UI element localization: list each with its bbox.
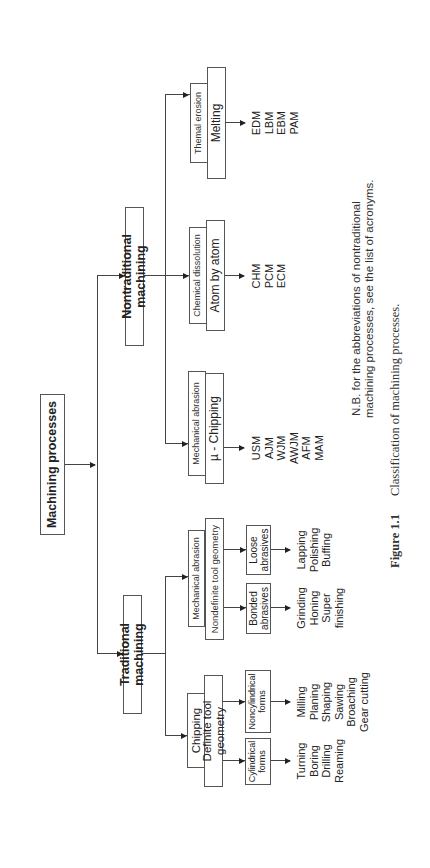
caption-text: Classification of machining processes. — [388, 304, 402, 496]
process-item: AJM — [263, 425, 276, 471]
process-item: Reaming — [333, 734, 346, 788]
process-item: Broaching — [345, 666, 358, 738]
arrow-head-icon — [285, 699, 291, 705]
node-label: abrasives — [259, 587, 270, 630]
node-label: Traditional machining — [119, 596, 145, 713]
connector-main-bar — [97, 275, 98, 654]
process-item: Milling — [295, 666, 308, 738]
node-label: Nontraditional machining — [121, 208, 147, 345]
node-atom-by-atom: Atom by atom — [206, 220, 225, 331]
process-list-cylindrical: Turning Boring Drilling Reaming — [295, 734, 345, 788]
abbreviation-note: N.B. for the abbreviations of nontraditi… — [350, 180, 376, 418]
node-label: µ - Chipping — [208, 396, 221, 461]
process-list-bonded: Grinding Honing Super finishing — [295, 580, 345, 636]
node-chemical-dissolution: Chemical dissolution — [189, 227, 207, 324]
figure-caption: Figure 1.1Classification of machining pr… — [388, 304, 403, 568]
node-bonded-abrasives: Bonded abrasives — [246, 583, 271, 634]
process-item: CHM — [250, 256, 263, 296]
process-item: Planing — [308, 666, 321, 738]
process-list-noncylindrical: Milling Planing Shaping Sawing Broaching… — [295, 666, 370, 738]
node-label: abrasives — [259, 529, 270, 572]
node-nondefinite-tool-geometry: Nondefinite tool geometry — [205, 518, 224, 640]
connector-traditional-bar — [165, 576, 166, 736]
node-cylindrical-forms: Cylindrical forms — [245, 738, 271, 785]
process-item: Buffing — [320, 522, 333, 578]
process-item: PCM — [263, 256, 276, 296]
node-loose-abrasives: Loose abrasives — [246, 525, 271, 575]
note-line: machining processes, see the list of acr… — [363, 180, 376, 418]
process-item: ECM — [275, 256, 288, 296]
process-item: USM — [250, 425, 263, 471]
process-item: Honing — [308, 580, 321, 636]
process-item: Drilling — [320, 734, 333, 788]
node-label: Mechanical abrasion — [192, 382, 201, 465]
process-list-mechanical-nt: USM AJM WJM AWJM AFM MAM — [250, 425, 325, 471]
process-item: Super — [320, 580, 333, 636]
node-label: forms — [258, 750, 268, 773]
node-nontraditional-machining: Nontraditional machining — [125, 207, 144, 346]
process-item: Sawing — [333, 666, 346, 738]
node-label: Loose — [248, 536, 259, 563]
connector — [144, 275, 165, 276]
arrow-head-icon — [183, 92, 189, 98]
process-item: AWJM — [288, 425, 301, 471]
node-noncylindrical-forms: Noncylindrical forms — [245, 670, 271, 733]
node-label: Chipping — [190, 708, 202, 753]
arrow-head-icon — [285, 605, 291, 611]
node-label: forms — [258, 690, 268, 713]
process-list-thermal: EDM LBM EBM PAM — [250, 103, 300, 143]
process-item: MAM — [313, 425, 326, 471]
node-label: Nondefinite tool geometry — [210, 525, 220, 633]
node-mechanical-abrasion-nontraditional: Mechanical abrasion — [188, 371, 206, 476]
process-item: Boring — [308, 734, 321, 788]
arrow-head-icon — [285, 758, 291, 764]
process-item: Grinding — [295, 580, 308, 636]
arrow-head-icon — [239, 273, 245, 279]
node-definite-tool-geometry: Definite tool geometry — [204, 675, 223, 787]
node-label: Definite tool geometry — [201, 676, 225, 786]
note-line: N.B. for the abbreviations of nontraditi… — [350, 180, 363, 418]
node-label: Bonded — [248, 591, 259, 625]
node-label: Melting — [210, 104, 223, 143]
process-list-chemical: CHM PCM ECM — [250, 256, 288, 296]
process-item: EDM — [250, 103, 263, 143]
process-item: finishing — [333, 580, 346, 636]
connector — [142, 653, 165, 654]
node-label: Atom by atom — [209, 238, 222, 312]
node-micro-chipping: µ - Chipping — [205, 373, 224, 484]
process-list-loose: Lapping Polishing Buffing — [295, 522, 333, 578]
figure-number: Figure 1.1 — [388, 514, 402, 568]
arrow-head-icon — [239, 445, 245, 451]
node-machining-processes: Machining processes — [40, 394, 65, 535]
node-label: Mechanical abrasion — [192, 537, 201, 620]
node-thermal-erosion: Themal erosion — [190, 83, 208, 163]
arrow-head-icon — [240, 120, 246, 126]
node-label: Machining processes — [46, 401, 59, 528]
node-label: Themal erosion — [194, 92, 203, 154]
diagram-canvas: Machining processes Nontraditional machi… — [0, 0, 430, 868]
process-item: Polishing — [308, 522, 321, 578]
process-item: AFM — [300, 425, 313, 471]
process-item: Shaping — [320, 666, 333, 738]
arrow-head-icon — [90, 462, 96, 468]
process-item: PAM — [288, 103, 301, 143]
process-item: Gear cutting — [358, 666, 371, 738]
connector-nontraditional-bar — [165, 94, 166, 444]
node-melting: Melting — [207, 67, 226, 179]
process-item: Lapping — [295, 522, 308, 578]
process-item: WJM — [275, 425, 288, 471]
process-item: EBM — [275, 103, 288, 143]
node-mechanical-abrasion-traditional: Mechanical abrasion — [188, 530, 205, 627]
node-traditional-machining: Traditional machining — [123, 595, 142, 714]
process-item: LBM — [263, 103, 276, 143]
process-item: Turning — [295, 734, 308, 788]
node-label: Chemical dissolution — [193, 234, 202, 317]
arrow-head-icon — [285, 547, 291, 553]
